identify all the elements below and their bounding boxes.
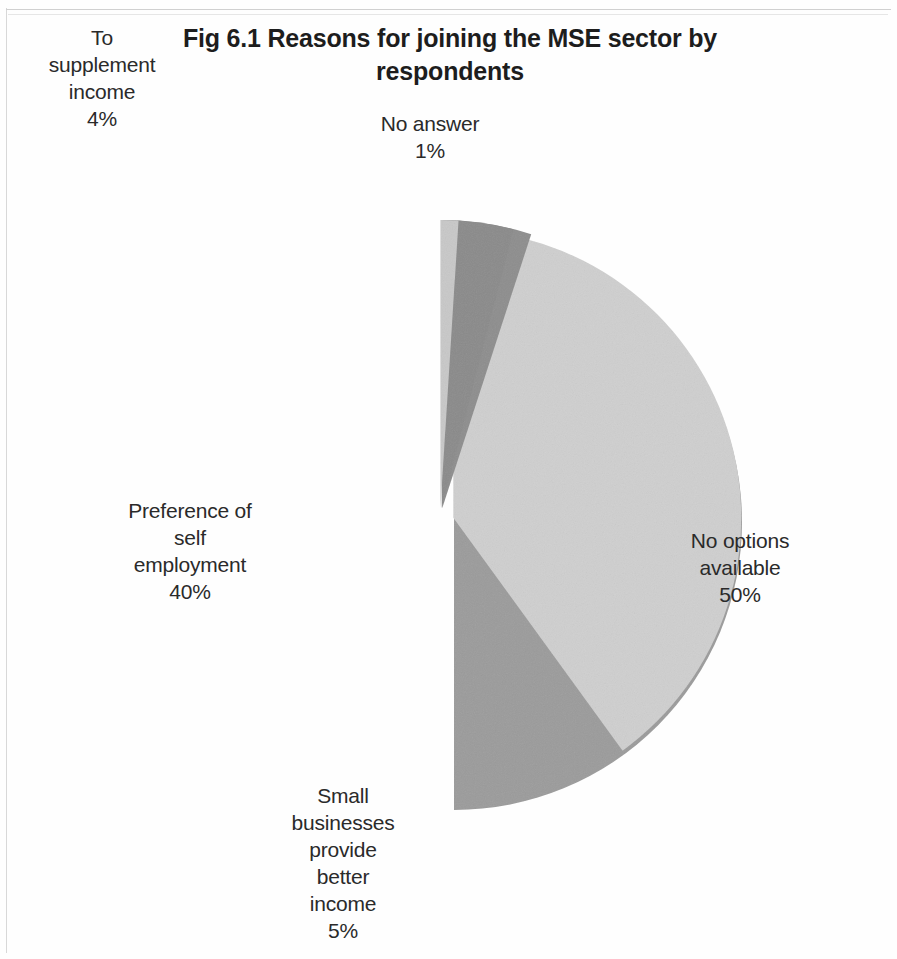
slice-label-line: businesses [248,809,438,836]
slice-value: 1% [300,137,560,164]
slice-value: 4% [22,105,182,132]
slice-label-line: employment [80,551,300,578]
slice-label-line: available [645,554,835,581]
slice-label-to-supplement-income: To supplement income 4% [22,24,182,132]
slice-label-no-answer: No answer 1% [300,110,560,164]
chart-page: Fig 6.1 Reasons for joining the MSE sect… [0,0,897,959]
slice-label-line: income [248,890,438,917]
slice-label-line: better [248,863,438,890]
slice-label-line: No answer [300,110,560,137]
slice-label-line: No options [645,527,835,554]
slice-label-line: Small [248,782,438,809]
slice-label-small-businesses-provide-better-income: Small businesses provide better income 5… [248,782,438,944]
slice-value: 40% [80,578,300,605]
slice-label-line: Preference of [80,497,300,524]
slice-label-preference-of-self-employment: Preference of self employment 40% [80,497,300,605]
slice-value: 50% [645,581,835,608]
slice-label-line: To [22,24,182,51]
slice-label-no-options-available: No options available 50% [645,527,835,608]
slice-label-line: income [22,78,182,105]
slice-label-line: self [80,524,300,551]
slice-value: 5% [248,917,438,944]
slice-label-line: provide [248,836,438,863]
slice-label-line: supplement [22,51,182,78]
